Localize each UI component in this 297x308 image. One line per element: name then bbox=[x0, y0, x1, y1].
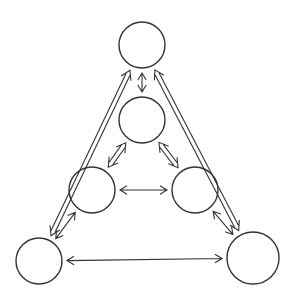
node-bottom-right bbox=[227, 232, 279, 284]
edge-upper-middle-middle-left bbox=[108, 143, 125, 167]
node-top bbox=[119, 22, 165, 68]
edge-top-bottom-left bbox=[50, 70, 131, 235]
node-bottom-left bbox=[16, 238, 62, 284]
node-upper-middle bbox=[119, 97, 165, 143]
network-diagram bbox=[0, 0, 297, 308]
edge-top-upper-middle bbox=[138, 73, 146, 92]
edge-middle-left-middle-right bbox=[120, 186, 167, 194]
edge-upper-middle-middle-right bbox=[159, 142, 178, 167]
edge-bottom-left-bottom-right bbox=[67, 254, 222, 264]
edge-middle-right-bottom-right bbox=[213, 211, 233, 234]
